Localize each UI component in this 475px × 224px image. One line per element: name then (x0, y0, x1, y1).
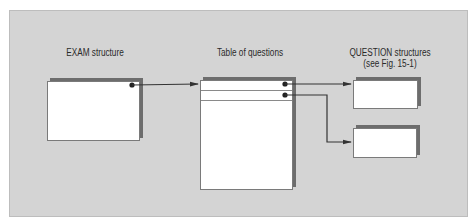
row2-to-question2-arrow (285, 95, 351, 142)
connector-arrows (0, 0, 475, 224)
exam-to-table-arrow (132, 84, 198, 85)
